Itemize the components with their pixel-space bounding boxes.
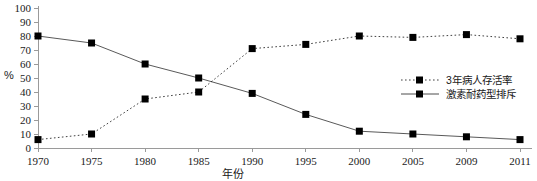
y-tick-label: 30 (20, 100, 32, 112)
legend-marker-2 (416, 91, 423, 98)
x-tick-label: 1985 (188, 155, 211, 167)
data-point-marker (409, 34, 416, 41)
data-point-marker (356, 33, 363, 40)
data-point-marker (409, 131, 416, 138)
legend-label-1: 3年病人存活率 (446, 74, 512, 86)
x-tick-label: 1995 (295, 155, 318, 167)
data-point-marker (195, 75, 202, 82)
x-tick-label: 1975 (81, 155, 104, 167)
y-tick-label: 40 (20, 86, 32, 98)
data-point-marker (249, 45, 256, 52)
data-point-marker (463, 31, 470, 38)
data-point-marker (35, 136, 42, 143)
y-tick-label: 70 (20, 44, 32, 56)
x-axis-title: 年份 (222, 167, 244, 180)
y-axis-group: 0102030405060708090100% (4, 2, 38, 154)
data-point-marker (517, 35, 524, 42)
y-tick-label: 0 (26, 142, 32, 154)
y-tick-label: 60 (20, 58, 32, 70)
data-point-marker (88, 40, 95, 47)
y-tick-label: 90 (20, 16, 32, 28)
y-tick-label: 20 (20, 114, 32, 126)
chart-plot-area: 0102030405060708090100% 1970197519801985… (0, 0, 537, 181)
data-point-marker (195, 89, 202, 96)
x-tick-label: 1980 (134, 155, 157, 167)
y-tick-label: 100 (15, 2, 32, 14)
data-point-marker (517, 136, 524, 143)
data-point-marker (249, 90, 256, 97)
data-point-marker (302, 41, 309, 48)
x-tick-label: 2000 (348, 155, 371, 167)
y-tick-label: 10 (20, 128, 32, 140)
data-point-marker (88, 131, 95, 138)
x-tick-label: 2011 (509, 155, 531, 167)
legend-group: 3年病人存活率激素耐药型排斥 (401, 74, 516, 100)
data-point-marker (142, 96, 149, 103)
legend-marker-1 (416, 77, 423, 84)
x-tick-label: 2009 (455, 155, 478, 167)
x-tick-label: 1970 (27, 155, 50, 167)
data-point-marker (35, 33, 42, 40)
x-tick-label: 2005 (402, 155, 425, 167)
data-point-marker (463, 133, 470, 140)
survival-rejection-line-chart: 0102030405060708090100% 1970197519801985… (0, 0, 537, 181)
data-point-marker (356, 128, 363, 135)
legend-label-2: 激素耐药型排斥 (446, 88, 516, 100)
y-axis-title: % (4, 69, 14, 81)
data-point-marker (302, 111, 309, 118)
y-tick-label: 80 (20, 30, 32, 42)
data-point-marker (142, 61, 149, 68)
x-tick-label: 1990 (241, 155, 264, 167)
x-axis-group: 1970197519801985199019952000200520092011… (27, 148, 532, 180)
y-tick-label: 50 (20, 72, 32, 84)
